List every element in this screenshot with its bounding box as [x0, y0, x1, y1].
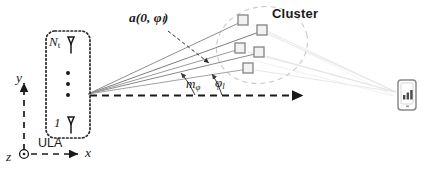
array-top-index-label: Nt [49, 35, 60, 50]
receiver-mobile-handset [398, 80, 416, 110]
angle-path-subscript: l [222, 81, 224, 91]
angle-mean-subscript: φ [195, 82, 200, 92]
steering-vector-leader [168, 31, 209, 63]
array-top-symbol: N [49, 34, 58, 49]
array-top-subscript: t [58, 40, 60, 50]
array-ellipsis-dots [66, 71, 70, 97]
scatterer-square [238, 15, 248, 25]
scatterer-square [254, 47, 264, 57]
y-axis-label-text: y [16, 70, 22, 85]
steering-vector-label: a(0, φₗ) [129, 11, 168, 25]
x-axis-label: x [85, 146, 91, 160]
array-bottom-symbol: 1 [54, 115, 61, 130]
angle-mean-label: mφ [186, 77, 200, 92]
z-axis-origin-symbol [20, 150, 29, 159]
scatterer-square [235, 43, 245, 53]
dipole-antenna-icon-bottom [68, 117, 74, 133]
scatterer-square [243, 63, 253, 73]
angle-path-label: φl [215, 76, 225, 91]
z-axis-label-text: z [6, 149, 11, 164]
z-axis-label: z [6, 150, 11, 164]
array-to-cluster-rays [88, 21, 262, 94]
ula-label: ULA [38, 137, 62, 150]
ula-label-text: ULA [38, 136, 62, 150]
scatterer-square [257, 25, 267, 35]
dipole-antenna-icon-top [68, 37, 74, 53]
scatterer-squares [235, 15, 267, 73]
y-axis-label: y [16, 71, 22, 85]
array-bottom-index-label: 1 [54, 116, 61, 129]
cluster-label-text: Cluster [272, 6, 318, 21]
cluster-label: Cluster [272, 7, 318, 20]
x-axis-label-text: x [85, 145, 91, 160]
angle-mean-symbol: m [186, 76, 195, 91]
steering-vector-text: a(0, φₗ) [129, 10, 168, 25]
diagram-canvas: a(0, φₗ) Cluster Nt 1 ULA y x z mφ φl [0, 0, 432, 178]
